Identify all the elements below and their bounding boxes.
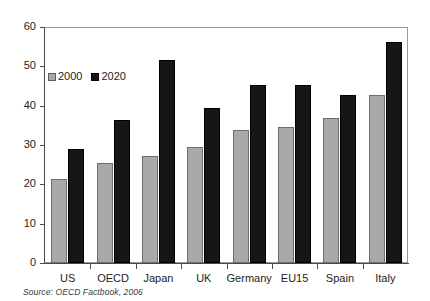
x-axis-tick-label: Japan [136, 272, 181, 284]
y-axis-tick-mark [40, 224, 45, 225]
legend-item-2020: 2020 [91, 71, 125, 82]
y-axis-tick-label: 40 [0, 100, 36, 111]
x-axis-tick-mark [227, 264, 228, 269]
bar-us-2020 [68, 149, 84, 263]
bar-italy-2000 [369, 95, 385, 263]
chart-figure: 0102030405060 USOECDJapanUKGermanyEU15Sp… [0, 0, 430, 301]
y-axis-tick-mark [40, 27, 45, 28]
bar-eu15-2000 [278, 127, 294, 263]
bar-japan-2020 [159, 60, 175, 263]
bar-oecd-2000 [97, 163, 113, 263]
y-axis-tick-mark [40, 145, 45, 146]
x-axis-tick-mark [136, 264, 137, 269]
bar-italy-2020 [386, 42, 402, 263]
y-axis-tick-mark [40, 184, 45, 185]
x-axis-tick-mark [317, 264, 318, 269]
y-axis-tick-label: 30 [0, 139, 36, 150]
bar-eu15-2020 [295, 85, 311, 263]
y-axis-tick-mark [40, 263, 45, 264]
y-axis-tick-label: 50 [0, 60, 36, 71]
legend-label-2020: 2020 [101, 71, 125, 82]
legend-item-2000: 2000 [48, 71, 82, 82]
chart-legend: 2000 2020 [46, 70, 128, 83]
x-axis-tick-mark [363, 264, 364, 269]
bar-germany-2000 [233, 130, 249, 263]
x-axis-tick-label: Germany [227, 272, 272, 284]
bar-oecd-2020 [114, 120, 130, 263]
bar-spain-2000 [323, 118, 339, 263]
bar-japan-2000 [142, 156, 158, 263]
x-axis-tick-label: UK [181, 272, 226, 284]
y-axis-tick-label: 60 [0, 21, 36, 32]
legend-swatch-2020-icon [91, 73, 99, 81]
bar-uk-2000 [187, 147, 203, 263]
x-axis-tick-mark [90, 264, 91, 269]
y-axis-tick-label: 0 [0, 257, 36, 268]
x-axis-tick-label: Italy [363, 272, 408, 284]
y-axis-tick-mark [40, 106, 45, 107]
bar-us-2000 [51, 179, 67, 263]
legend-label-2000: 2000 [58, 71, 82, 82]
x-axis-tick-label: EU15 [272, 272, 317, 284]
source-note: Source: OECD Factbook, 2006 [23, 287, 143, 297]
y-axis-tick-label: 10 [0, 218, 36, 229]
y-axis-tick-mark [40, 66, 45, 67]
x-axis-tick-mark [181, 264, 182, 269]
bar-uk-2020 [204, 108, 220, 263]
x-axis-tick-label: OECD [90, 272, 135, 284]
bar-spain-2020 [340, 95, 356, 263]
legend-swatch-2000-icon [48, 73, 56, 81]
x-axis-tick-label: US [45, 272, 90, 284]
y-axis-tick-label: 20 [0, 178, 36, 189]
bar-germany-2020 [250, 85, 266, 263]
x-axis-tick-mark [272, 264, 273, 269]
x-axis-tick-label: Spain [317, 272, 362, 284]
